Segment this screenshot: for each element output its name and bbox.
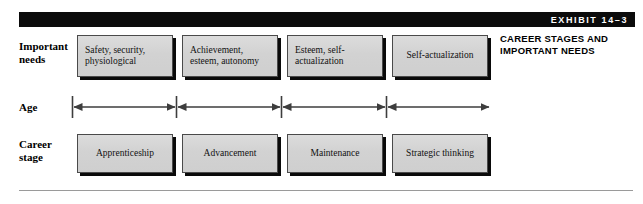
row-label-career-stage-line-1: Career: [19, 138, 77, 151]
exhibit-number-label: EXHIBIT 14–3: [551, 15, 628, 24]
row-label-career-stage: Career stage: [19, 138, 77, 164]
needs-box-0-label: Safety, security, physiological: [85, 45, 165, 68]
exhibit-header-bar: EXHIBIT 14–3: [19, 12, 635, 27]
needs-box-0: Safety, security, physiological: [77, 35, 173, 77]
age-axis: [60, 90, 510, 124]
bottom-divider: [19, 190, 633, 191]
career-box-2-label: Maintenance: [295, 148, 375, 160]
career-box-1: Advancement: [182, 134, 278, 173]
career-box-2: Maintenance: [287, 134, 383, 173]
career-box-3: Strategic thinking: [392, 134, 488, 173]
figure-title: CAREER STAGES AND IMPORTANT NEEDS: [500, 33, 640, 56]
age-axis-arrows-icon: [60, 90, 510, 124]
career-box-1-label: Advancement: [190, 148, 270, 160]
row-label-career-stage-line-2: stage: [19, 151, 77, 164]
row-label-important-needs-line-2: needs: [19, 53, 77, 66]
career-box-0: Apprenticeship: [77, 134, 173, 173]
figure-title-line-1: CAREER STAGES AND: [500, 33, 640, 45]
row-label-important-needs: Important needs: [19, 40, 77, 66]
figure-title-line-2: IMPORTANT NEEDS: [500, 45, 640, 57]
needs-box-3: Self-actualization: [392, 35, 488, 77]
needs-box-2-label: Esteem, self-actualization: [295, 45, 375, 68]
exhibit-figure: EXHIBIT 14–3 CAREER STAGES AND IMPORTANT…: [0, 0, 643, 204]
row-label-important-needs-line-1: Important: [19, 40, 77, 53]
needs-box-1: Achievement, esteem, autonomy: [182, 35, 278, 77]
needs-box-1-label: Achievement, esteem, autonomy: [190, 45, 270, 68]
needs-box-3-label: Self-actualization: [400, 50, 480, 62]
career-box-3-label: Strategic thinking: [400, 148, 480, 160]
career-box-0-label: Apprenticeship: [85, 148, 165, 160]
needs-box-2: Esteem, self-actualization: [287, 35, 383, 77]
